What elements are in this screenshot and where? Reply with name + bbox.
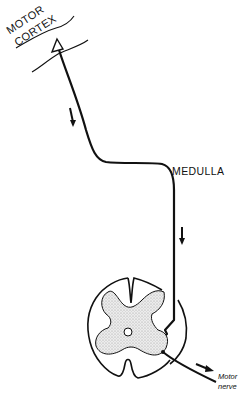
arrow-down-icon bbox=[70, 108, 76, 127]
spinal-cord-outline-right bbox=[170, 300, 187, 364]
arrow-right-icon bbox=[196, 364, 214, 372]
motor-nerve-label-line1: Motor bbox=[218, 372, 237, 382]
central-canal bbox=[124, 328, 132, 336]
arrow-down-icon bbox=[179, 227, 185, 245]
motor-pathway-diagram bbox=[0, 0, 246, 394]
medulla-label: MEDULLA bbox=[172, 165, 224, 177]
motor-nerve-label: Motor nerve bbox=[218, 372, 237, 392]
pyramidal-cell-icon bbox=[52, 39, 63, 52]
motor-nerve-label-line2: nerve bbox=[218, 382, 237, 392]
